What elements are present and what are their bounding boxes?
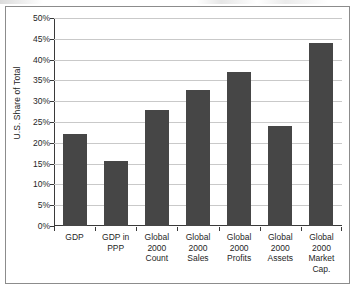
y-axis-tick-label: 35% [6,75,50,85]
x-axis-label-line: Global [136,232,177,243]
y-axis-tick-label: 40% [6,55,50,65]
x-axis-label-line: Global [177,232,218,243]
x-axis-label-line: Global [301,232,342,243]
y-axis-tick-labels: 0%5%10%15%20%25%30%35%40%45%50% [5,18,50,226]
x-axis-tick-label: GDP inPPP [95,232,136,253]
x-axis-label-line: 2000 [219,243,260,254]
bar[interactable] [186,90,210,226]
x-axis-tick-label: GDP [54,232,95,243]
bar-slot [136,18,177,226]
x-axis-tick-mark [219,227,220,231]
x-axis-tick-mark [260,227,261,231]
bar-slot [177,18,218,226]
x-axis-tick-label: Global2000Assets [260,232,301,264]
x-axis-tick-label: Global2000Count [136,232,177,264]
x-axis-tick-label: Global2000MarketCap. [301,232,342,274]
bar-slot [95,18,136,226]
bar[interactable] [268,126,292,226]
y-axis-tick-label: 45% [6,34,50,44]
x-axis-label-line: Cap. [301,264,342,275]
x-axis-label-line: GDP [54,232,95,243]
x-axis-label-line: Profits [219,253,260,264]
bar[interactable] [104,161,128,226]
bar-chart: U.S. Share of Total 0%5%10%15%20%25%30%3… [5,6,350,284]
x-axis-label-line: PPP [95,243,136,254]
bar[interactable] [227,72,251,226]
x-axis-label-line: Global [219,232,260,243]
y-axis-tick-label: 10% [6,179,50,189]
y-axis-tick-label: 25% [6,117,50,127]
x-axis-label-line: Global [260,232,301,243]
bar-slot [219,18,260,226]
x-axis-tick-mark [301,227,302,231]
y-axis-tick-label: 5% [6,200,50,210]
y-axis-tick-label: 0% [6,221,50,231]
bar-slot [54,18,95,226]
y-axis-tick-label: 20% [6,138,50,148]
x-axis-label-line: Market [301,253,342,264]
x-axis-label-line: 2000 [260,243,301,254]
x-axis-tick-mark [54,227,55,231]
x-axis-label-line: Count [136,253,177,264]
x-axis-tick-label: Global2000Sales [177,232,218,264]
bar[interactable] [63,134,87,226]
x-axis-label-line: GDP in [95,232,136,243]
scan-artifact [0,0,357,4]
x-axis-tick-mark [95,227,96,231]
x-axis-label-line: 2000 [177,243,218,254]
bar[interactable] [309,43,333,226]
x-axis-tick-mark [136,227,137,231]
plot-area [54,18,342,226]
x-axis-label-line: 2000 [301,243,342,254]
x-axis-label-line: Assets [260,253,301,264]
x-axis-tick-mark [341,227,342,231]
y-axis-tick-label: 30% [6,96,50,106]
y-axis-tick-label: 50% [6,13,50,23]
x-axis-tick-mark [177,227,178,231]
bar[interactable] [145,110,169,226]
x-axis-label-line: Sales [177,253,218,264]
y-axis-tick-label: 15% [6,159,50,169]
bar-slot [301,18,342,226]
x-axis-tick-label: Global2000Profits [219,232,260,264]
bar-slot [260,18,301,226]
x-axis-tick-labels: GDPGDP inPPPGlobal2000CountGlobal2000Sal… [54,232,342,284]
x-axis-tick-marks [54,227,342,231]
x-axis-label-line: 2000 [136,243,177,254]
